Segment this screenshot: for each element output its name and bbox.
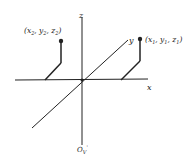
point-2-projection [45, 39, 63, 80]
point-1-label: (x1, y1, z1) [145, 35, 182, 45]
x-axis-label: x [147, 83, 152, 92]
point-2-label: (x2, y2, z2) [24, 26, 61, 36]
point-1-dot [138, 37, 142, 41]
viewer-origin-label: OV' [77, 144, 88, 155]
y-axis-label: y [128, 36, 134, 45]
coordinate-diagram: z x y (x2, y2, z2) (x1, y1, z1) OV' [0, 0, 195, 164]
point-2-dot [59, 39, 63, 43]
y-axis [32, 40, 128, 128]
origin-point [81, 79, 84, 82]
z-axis-label: z [78, 11, 84, 20]
